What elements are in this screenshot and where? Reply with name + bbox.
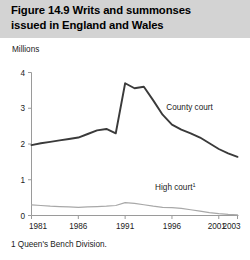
line-chart: 01234 198119861991199620012003 County co… [0, 58, 250, 230]
figure-title-band: Figure 14.9 Writs and summonses issued i… [0, 0, 250, 38]
x-axis-tick-label: 1991 [116, 222, 135, 231]
series-line [32, 83, 238, 157]
x-axis-tick-label: 1986 [69, 222, 88, 231]
y-axis-tick-label: 1 [20, 176, 25, 185]
series-annotation-label: High court1 [155, 182, 195, 192]
series-annotation-label: County court [166, 103, 213, 112]
y-axis-tick-label: 0 [20, 212, 25, 221]
x-axis-tick-label: 1996 [163, 222, 182, 231]
x-axis-tick-label: 1981 [29, 222, 48, 231]
y-axis: 01234 [20, 69, 31, 221]
y-axis-tick-label: 4 [20, 69, 25, 78]
y-axis-unit-label: Millions [12, 45, 39, 54]
x-axis-tick-label: 2003 [222, 222, 241, 231]
y-axis-tick-label: 2 [20, 140, 25, 149]
series-line [32, 203, 238, 215]
y-axis-tick-label: 3 [20, 104, 25, 113]
chart-plot-area: 01234 198119861991199620012003 County co… [0, 58, 250, 230]
figure-title-line-2: issued in England and Wales [11, 18, 240, 33]
figure-footnote: 1 Queen's Bench Division. [11, 240, 107, 249]
figure-title-line-1: Figure 14.9 Writs and summonses [11, 3, 240, 18]
x-axis: 198119861991199620012003 [29, 216, 241, 231]
